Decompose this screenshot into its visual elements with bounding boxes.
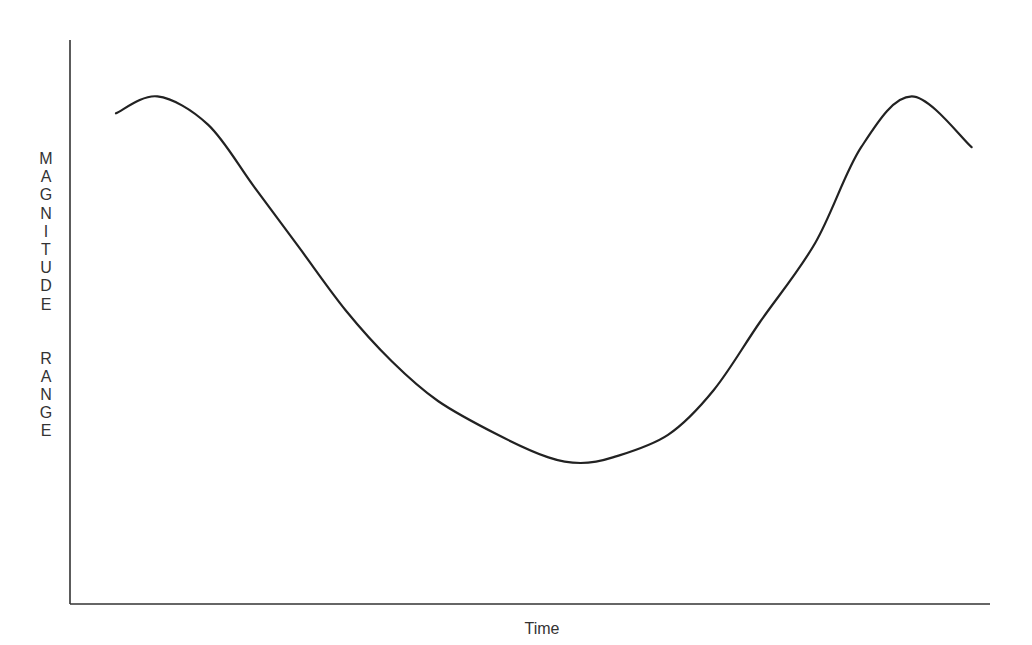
y-axis-label-letter: A [41,368,52,386]
magnitude-curve [116,96,972,463]
y-axis-label-letter: I [44,223,48,241]
y-axis-label: MAGNITUDERANGE [36,150,56,441]
y-axis-label-letter: T [41,241,51,259]
y-axis-label-letter: G [40,186,52,204]
y-axis-label-letter: E [41,296,52,314]
chart-canvas [0,0,1032,645]
y-axis-label-letter: E [41,422,52,440]
y-axis-label-letter: A [41,168,52,186]
x-axis-label: Time [0,620,1032,638]
y-axis-label-letter: D [40,277,52,295]
y-axis-label-letter: N [40,205,52,223]
y-axis-label-letter: R [40,350,52,368]
y-axis-label-letter: M [39,150,52,168]
y-axis-label-letter: N [40,386,52,404]
y-axis-label-letter: G [40,404,52,422]
y-axis-label-letter: U [40,259,52,277]
